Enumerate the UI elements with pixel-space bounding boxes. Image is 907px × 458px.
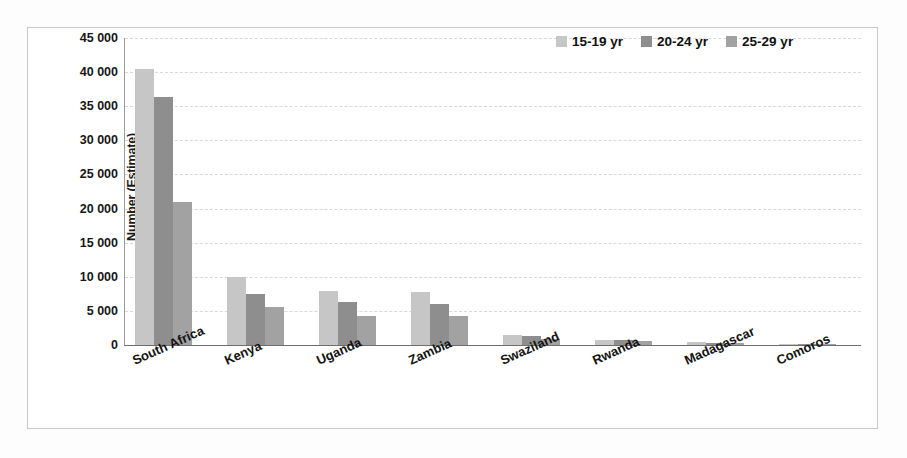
y-axis-tick-label: 5 000 xyxy=(32,304,118,318)
plot-area xyxy=(124,38,861,346)
legend-item[interactable]: 25-29 yr xyxy=(726,34,793,49)
x-axis-tick-group: Kenya xyxy=(216,348,308,418)
legend-label: 25-29 yr xyxy=(742,34,793,49)
bar-group xyxy=(401,38,493,345)
bar-group xyxy=(769,38,861,345)
bar xyxy=(246,294,265,345)
y-axis-tick-label: 45 000 xyxy=(32,31,118,45)
bar-group xyxy=(493,38,585,345)
x-axis-tick-labels: South AfricaKenyaUgandaZambiaSwazilandRw… xyxy=(124,348,860,418)
bar xyxy=(227,277,246,345)
bar xyxy=(173,202,192,345)
x-axis-tick-group: Swaziland xyxy=(492,348,584,418)
bar xyxy=(154,97,173,345)
y-axis-tick-label: 30 000 xyxy=(32,133,118,147)
y-axis-tick-label: 10 000 xyxy=(32,270,118,284)
bar-group xyxy=(309,38,401,345)
bar xyxy=(319,291,338,345)
legend-swatch-icon xyxy=(726,36,737,47)
x-axis-tick-group: Uganda xyxy=(308,348,400,418)
bar-group xyxy=(125,38,217,345)
bar-group xyxy=(217,38,309,345)
x-axis-tick-group: Zambia xyxy=(400,348,492,418)
bar-groups xyxy=(125,38,861,345)
legend-item[interactable]: 20-24 yr xyxy=(641,34,708,49)
bar-group xyxy=(585,38,677,345)
bar xyxy=(449,316,468,345)
y-axis-tick-label: 20 000 xyxy=(32,202,118,216)
chart-legend: 15-19 yr20-24 yr25-29 yr xyxy=(556,34,793,49)
chart-figure: Number (Estimate) 05 00010 00015 00020 0… xyxy=(0,0,907,458)
legend-swatch-icon xyxy=(641,36,652,47)
y-axis-tick-label: 35 000 xyxy=(32,99,118,113)
y-axis-tick-labels: 05 00010 00015 00020 00025 00030 00035 0… xyxy=(28,38,118,345)
x-axis-tick-group: Comoros xyxy=(768,348,860,418)
y-axis-tick-label: 0 xyxy=(32,338,118,352)
x-axis-tick-group: Rwanda xyxy=(584,348,676,418)
bar xyxy=(265,307,284,345)
legend-label: 20-24 yr xyxy=(657,34,708,49)
y-axis-tick-label: 25 000 xyxy=(32,167,118,181)
y-axis-tick-label: 40 000 xyxy=(32,65,118,79)
x-axis-tick-group: Madagascar xyxy=(676,348,768,418)
y-axis-tick-label: 15 000 xyxy=(32,236,118,250)
legend-item[interactable]: 15-19 yr xyxy=(556,34,623,49)
x-axis-tick-group: South Africa xyxy=(124,348,216,418)
bar xyxy=(411,292,430,345)
legend-swatch-icon xyxy=(556,36,567,47)
legend-label: 15-19 yr xyxy=(572,34,623,49)
bar xyxy=(135,69,154,345)
bar-group xyxy=(677,38,769,345)
